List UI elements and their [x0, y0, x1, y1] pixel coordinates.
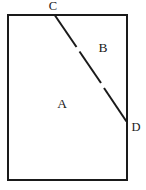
divider-part-2: [80, 52, 102, 84]
region-label-b: B: [98, 41, 107, 55]
figure-canvas: [0, 0, 146, 190]
vertex-label-d: D: [131, 121, 140, 134]
region-label-a: A: [57, 97, 67, 111]
divider-part-1: [55, 16, 77, 48]
vertex-label-c: C: [49, 0, 57, 12]
rectangle-outline: [8, 15, 127, 180]
geometric-figure: C D A B: [0, 0, 146, 190]
divider-part-3: [104, 88, 127, 122]
